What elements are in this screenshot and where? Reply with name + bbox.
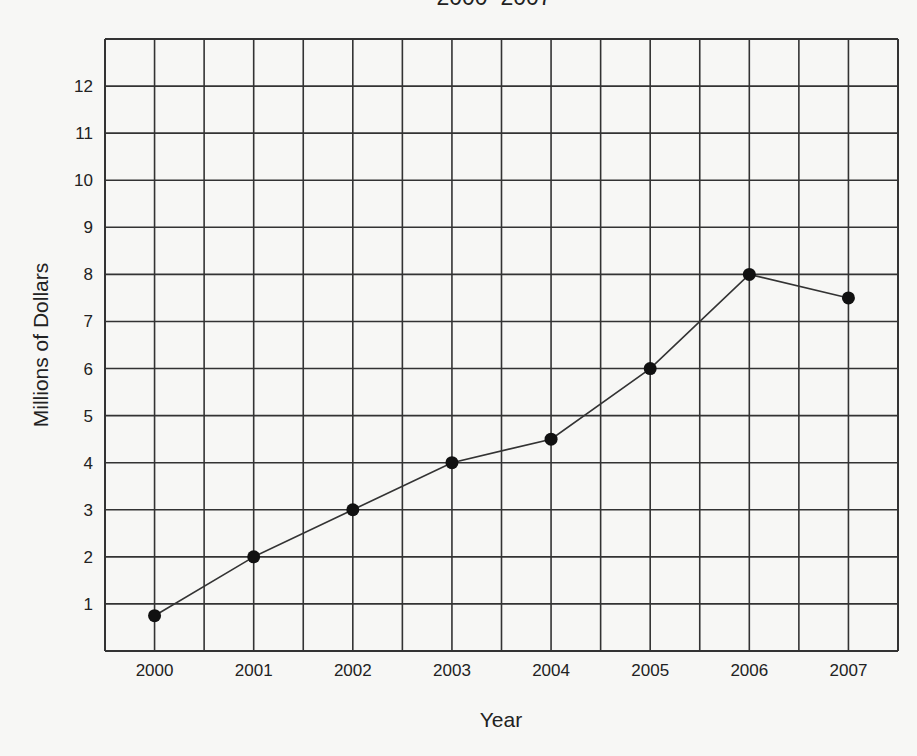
y-tick-label: 5	[84, 407, 93, 426]
y-tick-label: 6	[84, 360, 93, 379]
chart-grid	[105, 39, 898, 651]
x-tick-label: 2003	[433, 661, 471, 680]
y-tick-label: 7	[84, 312, 93, 331]
data-point-marker	[842, 291, 855, 304]
data-point-marker	[346, 503, 359, 516]
y-tick-label: 4	[84, 454, 93, 473]
x-tick-label: 2005	[631, 661, 669, 680]
y-tick-label: 1	[84, 595, 93, 614]
x-tick-label: 2001	[235, 661, 273, 680]
data-point-marker	[247, 550, 260, 563]
y-tick-label: 10	[74, 171, 93, 190]
y-tick-label: 9	[84, 218, 93, 237]
data-point-marker	[644, 362, 657, 375]
data-point-marker	[743, 268, 756, 281]
x-tick-label: 2007	[830, 661, 868, 680]
x-tick-label: 2000	[136, 661, 174, 680]
x-tick-label: 2006	[730, 661, 768, 680]
x-axis-title: Year	[480, 708, 522, 731]
y-tick-label: 11	[75, 124, 93, 143]
y-tick-label: 8	[84, 265, 93, 284]
x-tick-label: 2004	[532, 661, 570, 680]
data-point-marker	[545, 433, 558, 446]
y-tick-label: 3	[84, 501, 93, 520]
x-axis-ticks: 20002001200220032004200520062007	[136, 661, 868, 680]
line-chart: 2000–2007 123456789101112 20002001200220…	[0, 0, 917, 756]
data-point-marker	[148, 609, 161, 622]
y-tick-label: 2	[84, 548, 93, 567]
x-tick-label: 2002	[334, 661, 372, 680]
chart-title: 2000–2007	[436, 0, 551, 10]
y-axis-title: Millions of Dollars	[29, 263, 52, 428]
y-tick-label: 12	[74, 77, 93, 96]
data-point-marker	[445, 456, 458, 469]
y-axis-ticks: 123456789101112	[74, 77, 93, 614]
